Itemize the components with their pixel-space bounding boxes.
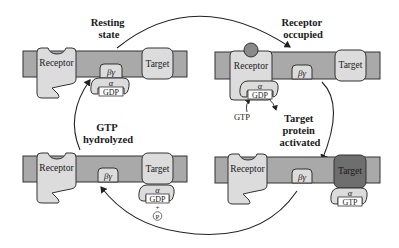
alpha-label: α (348, 188, 353, 198)
label-gtp-hydrolyzed: GTP hydrolyzed (83, 122, 133, 145)
receptor (37, 153, 76, 203)
gtp-label: GTP (342, 198, 358, 207)
target-label: Target (338, 166, 362, 176)
receptor (37, 48, 76, 98)
label-receptor-occupied: Receptor occupied (281, 17, 324, 40)
beta-gamma-label: βγ (103, 171, 112, 181)
gdp-label: GDP (252, 91, 269, 100)
beta-gamma-label: βγ (297, 172, 306, 182)
label-target-activated: Target protein activated (280, 113, 321, 148)
arrow-resting-to-occupied (117, 16, 290, 48)
gdp-label: GDP (103, 88, 120, 97)
beta-gamma-label: βγ (106, 67, 115, 77)
panel-gtp-hydrolyzed: Receptor βγ Target α GDP + P (23, 153, 187, 221)
label-resting-state: Resting state (91, 17, 127, 40)
target-label: Target (146, 164, 170, 174)
g-protein-cycle-diagram: Resting state Receptor occupied Target p… (0, 0, 399, 248)
arrow-occupied-to-activated (322, 82, 334, 160)
receptor (228, 154, 267, 204)
target-label: Target (339, 60, 363, 70)
alpha-label: α (109, 78, 114, 88)
receptor-label: Receptor (39, 163, 74, 173)
target-label: Target (146, 59, 170, 69)
gtp-in-label: GTP (234, 112, 250, 122)
panel-receptor-occupied: Receptor Target βγ α GDP GTP (215, 43, 380, 122)
alpha-label: α (155, 185, 160, 195)
alpha-label: α (258, 81, 263, 91)
receptor-label: Receptor (39, 58, 74, 68)
receptor-label: Receptor (230, 164, 265, 174)
receptor-label: Receptor (234, 61, 269, 71)
panel-resting-state: Receptor Target βγ α GDP (23, 48, 187, 98)
panel-target-activated: Receptor βγ Target α GTP (215, 154, 380, 207)
beta-gamma-label: βγ (297, 68, 306, 78)
ligand (244, 43, 258, 57)
gdp-label: GDP (149, 195, 166, 204)
plus-sign: + (156, 204, 160, 212)
arrow-activated-to-hydrolyzed (101, 187, 297, 235)
arrow-gtp-in (246, 99, 250, 112)
phosphate-label: P (156, 213, 160, 221)
